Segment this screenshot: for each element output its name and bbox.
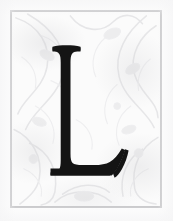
illuminated-initial-plate: L Decorative drop-cap initial letter L o… [0,0,173,221]
initial-letter-layer [10,10,162,208]
